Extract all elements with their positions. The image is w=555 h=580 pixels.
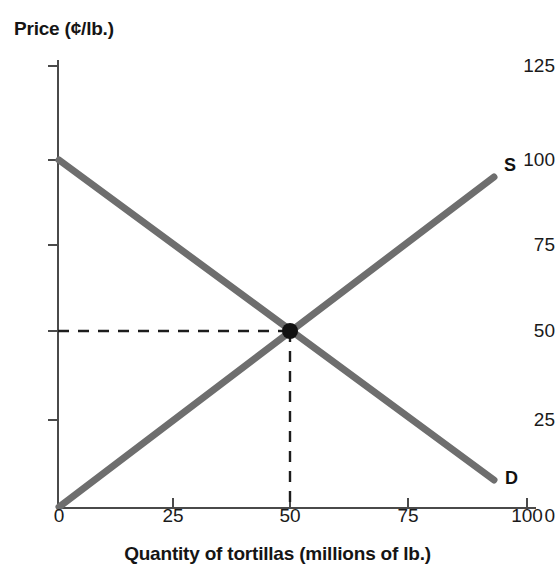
- y-tick-label-75: 75: [509, 234, 555, 256]
- demand-curve: [59, 160, 494, 480]
- equilibrium-point-marker: [282, 323, 298, 339]
- supply-demand-chart: Price (¢/lb.) 125 100 75 50 25 0 0 25: [0, 0, 555, 580]
- x-tick-label-75: 75: [388, 505, 428, 527]
- demand-curve-label: D: [505, 468, 518, 489]
- y-tick-label-25: 25: [509, 409, 555, 431]
- y-tick-label-125: 125: [509, 55, 555, 77]
- supply-curve-label: S: [504, 155, 516, 176]
- y-tick-label-50: 50: [509, 320, 555, 342]
- plot-area: [0, 0, 555, 580]
- x-tick-label-25: 25: [153, 505, 193, 527]
- x-tick-label-100: 100: [502, 505, 552, 527]
- x-tick-label-0: 0: [39, 505, 79, 527]
- x-axis-title: Quantity of tortillas (millions of lb.): [0, 543, 555, 565]
- x-tick-label-50: 50: [270, 505, 310, 527]
- supply-curve: [59, 177, 494, 507]
